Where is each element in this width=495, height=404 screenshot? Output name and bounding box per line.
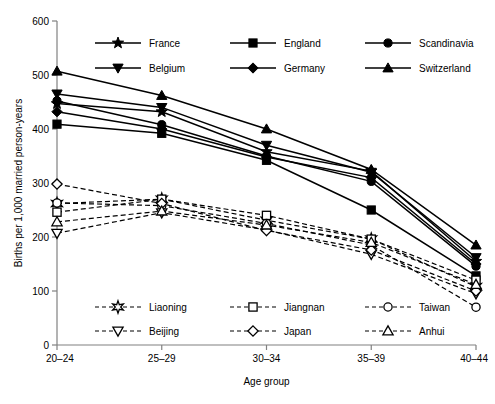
legend-label: Scandinavia: [419, 38, 474, 49]
legend-marker-triangle-up: [383, 326, 393, 335]
legend-label: Germany: [284, 63, 325, 74]
series-belgium: [52, 90, 481, 263]
legend-label: France: [149, 38, 181, 49]
legend-marker-star: [112, 37, 123, 48]
star-shape: [112, 37, 123, 48]
legend-bottom-item-anhui[interactable]: Anhui: [365, 326, 445, 337]
data-point-switzerland-4: [471, 240, 481, 249]
legend-label: Anhui: [419, 326, 445, 337]
legend-marker-square: [249, 39, 257, 47]
legend-bottom-item-japan[interactable]: Japan: [230, 326, 311, 337]
series-liaoning: [52, 193, 482, 293]
legend-marker-square: [249, 303, 257, 311]
x-axis-title: Age group: [243, 376, 290, 387]
legend-top-item-france[interactable]: France: [95, 37, 181, 49]
legend-label: Japan: [284, 326, 311, 337]
series-layer: [51, 66, 481, 311]
x-tick-label: 20–24: [46, 353, 74, 364]
legend-bottom: LiaoningJiangnanTaiwanBeijingJapanAnhui: [95, 301, 450, 337]
y-tick-label: 500: [32, 70, 49, 81]
y-tick-label: 600: [32, 16, 49, 27]
data-point-taiwan-0: [53, 199, 61, 207]
legend-label: Jiangnan: [284, 302, 325, 313]
y-tick-label: 100: [32, 286, 49, 297]
legend-bottom-item-taiwan[interactable]: Taiwan: [365, 302, 450, 313]
legend-label: Liaoning: [149, 302, 187, 313]
legend-bottom-item-beijing[interactable]: Beijing: [95, 326, 179, 337]
legend-bottom-item-liaoning[interactable]: Liaoning: [95, 301, 187, 313]
asterisk-shape: [113, 301, 124, 313]
legend-label: Belgium: [149, 63, 185, 74]
data-point-jiangnan-2: [262, 211, 270, 219]
legend-top-item-switzerland[interactable]: Switzerland: [365, 63, 471, 74]
data-point-england-3: [367, 206, 375, 214]
data-point-england-0: [53, 120, 61, 128]
data-point-japan-0: [52, 179, 62, 189]
x-tick-label: 35–39: [357, 353, 385, 364]
data-point-jiangnan-0: [53, 208, 61, 216]
legend-marker-circle: [384, 303, 392, 311]
x-tick-label: 30–34: [253, 353, 281, 364]
legend-top-item-belgium[interactable]: Belgium: [95, 63, 185, 74]
legend-top-item-england[interactable]: England: [230, 38, 321, 49]
y-axis-title: Births per 1,000 married person-years: [13, 99, 24, 267]
fertility-by-age-chart: 010020030040050060020–2425–2930–3435–394…: [0, 0, 495, 404]
legend-top-item-germany[interactable]: Germany: [230, 63, 325, 74]
y-tick-label: 400: [32, 124, 49, 135]
legend-marker-triangle-down: [113, 327, 123, 336]
legend-label: Switzerland: [419, 63, 471, 74]
y-tick-label: 200: [32, 232, 49, 243]
legend-top: FranceEnglandScandinaviaBelgiumGermanySw…: [95, 37, 474, 74]
series-japan: [52, 179, 481, 296]
y-tick-label: 300: [32, 178, 49, 189]
legend-label: England: [284, 38, 321, 49]
series-scandinavia: [53, 97, 480, 270]
legend-bottom-item-jiangnan[interactable]: Jiangnan: [230, 302, 325, 313]
legend-marker-asterisk: [113, 301, 124, 313]
legend-marker-diamond: [248, 63, 258, 73]
data-point-switzerland-0: [52, 66, 62, 75]
axis-labels-layer: Age groupBirths per 1,000 married person…: [13, 99, 290, 387]
legend-top-item-scandinavia[interactable]: Scandinavia: [365, 38, 474, 49]
x-tick-label: 25–29: [148, 353, 176, 364]
legend-label: Taiwan: [419, 302, 450, 313]
legend-label: Beijing: [149, 326, 179, 337]
chart-canvas: 010020030040050060020–2425–2930–3435–394…: [0, 0, 495, 404]
y-tick-label: 0: [43, 340, 49, 351]
x-tick-label: 40–44: [460, 353, 488, 364]
legend-marker-diamond: [248, 326, 258, 336]
series-line: [57, 112, 476, 264]
legend-marker-circle: [384, 39, 392, 47]
data-point-taiwan-4: [472, 303, 480, 311]
